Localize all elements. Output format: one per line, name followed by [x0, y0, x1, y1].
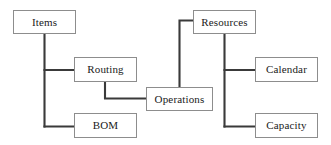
node-operations-label: Operations [155, 94, 205, 105]
node-resources[interactable]: Resources [193, 10, 256, 34]
node-bom-label: BOM [93, 120, 119, 131]
node-capacity[interactable]: Capacity [255, 113, 318, 138]
node-capacity-label: Capacity [266, 120, 306, 131]
node-routing[interactable]: Routing [74, 57, 137, 82]
node-operations[interactable]: Operations [146, 87, 213, 111]
node-items-label: Items [32, 17, 57, 28]
diagram-canvas: Items Routing BOM Operations Resources C… [0, 0, 331, 145]
connector-routing-operations [105, 82, 146, 99]
node-items[interactable]: Items [13, 10, 76, 34]
node-calendar[interactable]: Calendar [255, 57, 318, 82]
node-bom[interactable]: BOM [74, 113, 137, 138]
node-calendar-label: Calendar [266, 64, 307, 75]
node-resources-label: Resources [201, 17, 248, 28]
connector-resources-operations [180, 21, 194, 88]
node-routing-label: Routing [87, 64, 124, 75]
